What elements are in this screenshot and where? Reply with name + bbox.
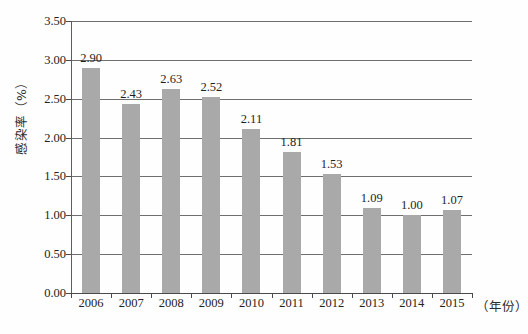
bar-value-label: 2.11 (229, 113, 273, 126)
bar-value-label: 1.81 (270, 136, 314, 149)
y-axis-tick-mark (66, 21, 71, 22)
y-axis-tick-label: 2.50 (20, 93, 66, 106)
x-axis-tick-label: 2008 (149, 297, 193, 310)
y-axis-tick-label: 1.50 (20, 170, 66, 183)
bar (403, 215, 421, 293)
bar (162, 89, 180, 293)
y-axis-tick-label: 3.50 (20, 15, 66, 28)
x-axis-tick-label: 2007 (109, 297, 153, 310)
bar-value-label: 1.53 (310, 158, 354, 171)
bar (82, 68, 100, 293)
y-axis-tick-mark (66, 138, 71, 139)
bar-value-label: 2.90 (69, 52, 113, 65)
bar (363, 208, 381, 293)
plot-area: 2.902.432.632.522.111.811.531.091.001.07 (71, 21, 472, 293)
y-axis-tick-mark (66, 176, 71, 177)
y-axis-tick-label: 3.00 (20, 54, 66, 67)
bar-value-label: 2.52 (189, 81, 233, 94)
x-axis-tick-label: 2014 (390, 297, 434, 310)
bar (283, 152, 301, 293)
bar (323, 174, 341, 293)
bar-value-label: 1.00 (390, 199, 434, 212)
bar-value-label: 1.09 (350, 192, 394, 205)
bar-value-label: 2.43 (109, 88, 153, 101)
bar (242, 129, 260, 293)
y-axis-tick-labels: 0.000.501.001.502.002.503.003.50 (18, 0, 66, 334)
gridline (71, 21, 472, 22)
y-axis-tick-label: 1.00 (20, 209, 66, 222)
y-axis-tick-mark (66, 215, 71, 216)
bar-chart: 感染率（%） 0.000.501.001.502.002.503.003.50 … (0, 0, 528, 334)
x-axis-tick-label: 2009 (189, 297, 233, 310)
x-axis-tick-label: 2012 (310, 297, 354, 310)
bar-value-label: 1.07 (430, 194, 474, 207)
gridline (71, 60, 472, 61)
x-axis-tick-label: 2015 (430, 297, 474, 310)
bar-value-label: 2.63 (149, 73, 193, 86)
x-axis-tick-label: 2006 (69, 297, 113, 310)
y-axis-tick-mark (66, 254, 71, 255)
x-axis-title: （年份） (476, 296, 528, 315)
x-axis-tick-label: 2010 (229, 297, 273, 310)
y-axis-tick-label: 0.50 (20, 248, 66, 261)
bar (202, 97, 220, 293)
x-axis-tick-label: 2013 (350, 297, 394, 310)
x-axis-tick-label: 2011 (270, 297, 314, 310)
y-axis-tick-label: 0.00 (20, 287, 66, 300)
y-axis-tick-mark (66, 99, 71, 100)
bar (443, 210, 461, 293)
y-axis-tick-label: 2.00 (20, 132, 66, 145)
bar (122, 104, 140, 293)
